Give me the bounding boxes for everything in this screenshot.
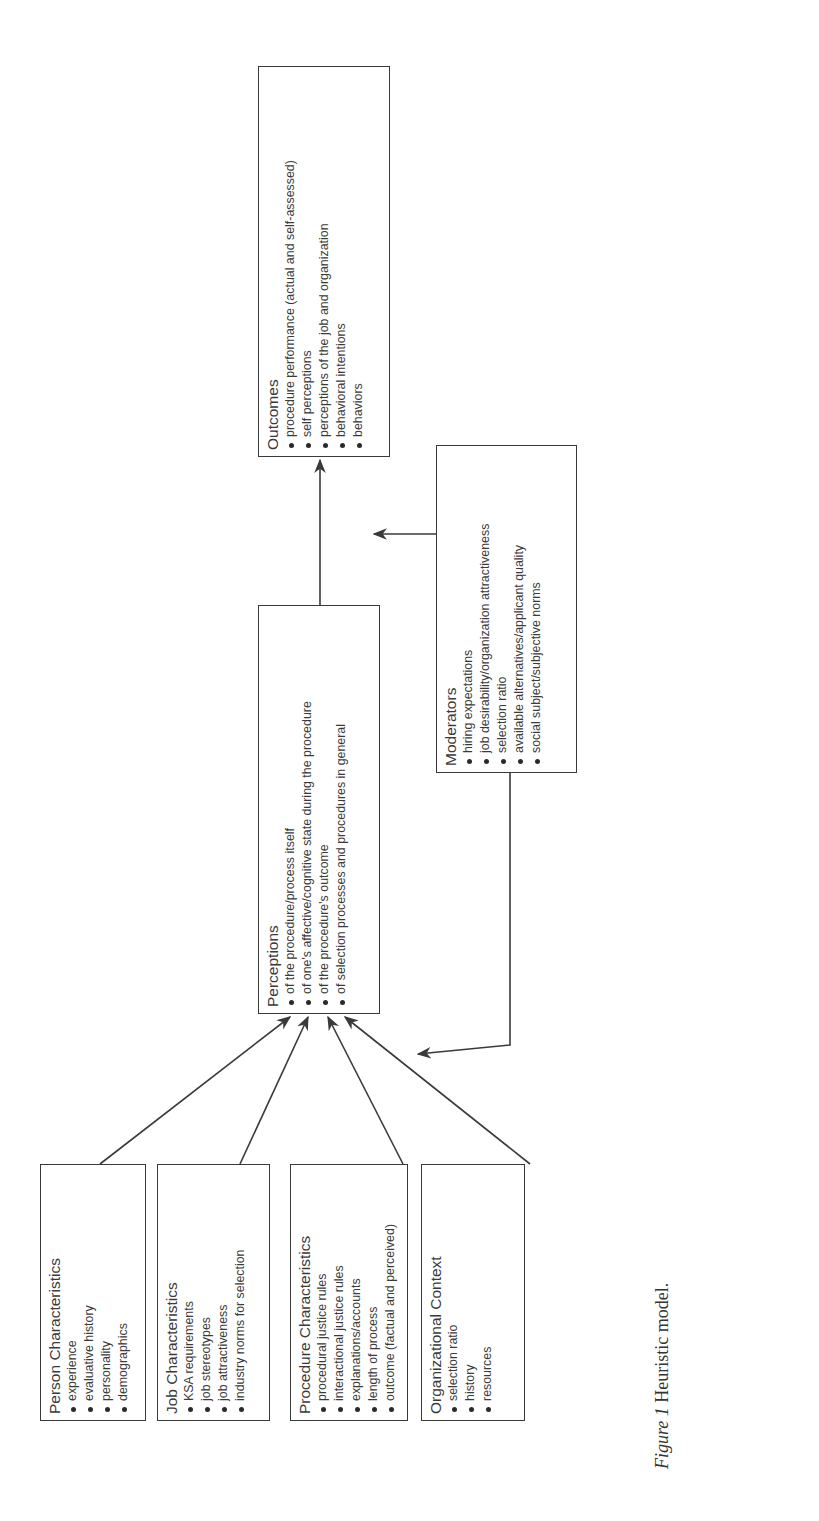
outcomes-box: Outcomes procedure performance (actual a…: [258, 66, 390, 457]
box-title: Perceptions: [264, 612, 281, 1007]
list-item: selection ratio: [445, 1171, 462, 1414]
organizational-context-box: Organizational Context selection ratio h…: [421, 1164, 525, 1421]
list-item: selection ratio: [494, 452, 511, 766]
list-item: KSA requirements: [181, 1171, 198, 1414]
box-title: Job Characteristics: [163, 1171, 180, 1414]
list-item: outcome (factual and perceived): [382, 1171, 399, 1414]
arrow-moderators-to-antecedent-links: [418, 773, 510, 1054]
list-item: procedural justice rules: [314, 1171, 331, 1414]
heuristic-model-figure: Person Characteristics experience evalua…: [0, 0, 819, 1521]
figure-label: Figure 1: [652, 1407, 672, 1469]
list-item: length of process: [365, 1171, 382, 1414]
moderators-box: Moderators hiring expectations job desir…: [436, 445, 577, 773]
list-item: social subject/subjective norms: [528, 452, 545, 766]
list-item: job desirability/organization attractive…: [477, 452, 494, 766]
list-item: evaluative history: [81, 1171, 98, 1414]
list-item: of the procedure/process itself: [282, 612, 299, 1007]
list-item: explanations/accounts: [348, 1171, 365, 1414]
list-item: job stereotypes: [198, 1171, 215, 1414]
list-item: self perceptions: [299, 73, 316, 450]
list-item: of the procedure's outcome: [316, 612, 333, 1007]
arrow-person-to-perceptions: [100, 1017, 290, 1164]
box-title: Moderators: [442, 452, 459, 766]
list-item: hiring expectations: [460, 452, 477, 766]
list-item: history: [462, 1171, 479, 1414]
list-item: experience: [64, 1171, 81, 1414]
arrow-job-to-perceptions: [240, 1017, 308, 1164]
list-item: industry norms for selection: [232, 1171, 249, 1414]
arrow-org-to-perceptions: [345, 1017, 530, 1164]
list-item: behaviors: [350, 73, 367, 450]
box-title: Person Characteristics: [46, 1171, 63, 1414]
list-item: interactional justice rules: [331, 1171, 348, 1414]
procedure-characteristics-box: Procedure Characteristics procedural jus…: [290, 1164, 408, 1421]
perceptions-box: Perceptions of the procedure/process its…: [258, 605, 380, 1014]
list-item: demographics: [115, 1171, 132, 1414]
list-item: available alternatives/applicant quality: [511, 452, 528, 766]
list-item: resources: [479, 1171, 496, 1414]
list-item: of one's affective/cognitive state durin…: [299, 612, 316, 1007]
box-title: Procedure Characteristics: [296, 1171, 313, 1414]
box-title: Outcomes: [264, 73, 281, 450]
list-item: behavioral intentions: [333, 73, 350, 450]
figure-caption: Figure 1 Heuristic model.: [652, 1283, 673, 1469]
person-characteristics-box: Person Characteristics experience evalua…: [40, 1164, 146, 1421]
job-characteristics-box: Job Characteristics KSA requirements job…: [157, 1164, 270, 1421]
list-item: procedure performance (actual and self-a…: [282, 73, 299, 450]
box-title: Organizational Context: [427, 1171, 444, 1414]
list-item: personality: [98, 1171, 115, 1414]
figure-title: Heuristic model.: [652, 1283, 672, 1403]
list-item: job attractiveness: [215, 1171, 232, 1414]
list-item: of selection processes and procedures in…: [333, 612, 350, 1007]
list-item: perceptions of the job and organization: [316, 73, 333, 450]
arrow-procedure-to-perceptions: [328, 1017, 403, 1164]
